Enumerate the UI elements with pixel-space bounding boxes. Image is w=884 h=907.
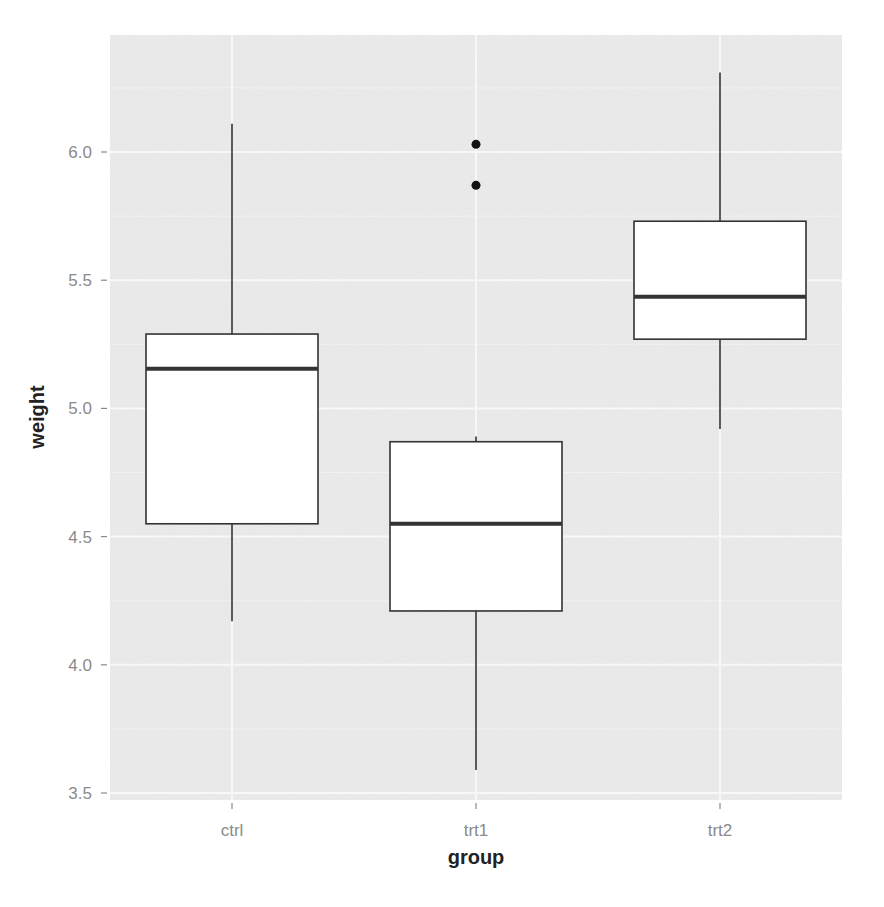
y-axis: 3.54.04.55.05.56.0 xyxy=(68,143,107,803)
boxplot-chart: 3.54.04.55.05.56.0 ctrltrt1trt2 group we… xyxy=(0,0,884,907)
y-axis-title: weight xyxy=(26,385,48,450)
x-axis-title: group xyxy=(448,846,505,868)
outlier-point xyxy=(472,140,481,149)
y-tick-label: 4.5 xyxy=(68,528,92,547)
x-tick-label-trt2: trt2 xyxy=(708,821,733,840)
plot-panel xyxy=(110,35,842,800)
iqr-box xyxy=(390,442,562,611)
y-tick-label: 5.0 xyxy=(68,399,92,418)
y-tick-label: 3.5 xyxy=(68,784,92,803)
outlier-point xyxy=(472,181,481,190)
x-axis: ctrltrt1trt2 xyxy=(221,803,733,840)
iqr-box xyxy=(634,221,806,339)
x-tick-label-ctrl: ctrl xyxy=(221,821,244,840)
y-tick-label: 6.0 xyxy=(68,143,92,162)
x-tick-label-trt1: trt1 xyxy=(464,821,489,840)
y-tick-label: 4.0 xyxy=(68,656,92,675)
iqr-box xyxy=(146,334,318,524)
y-tick-label: 5.5 xyxy=(68,271,92,290)
